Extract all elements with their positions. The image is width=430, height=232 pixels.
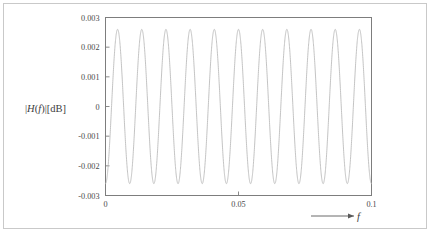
plot-frame — [106, 18, 372, 196]
chart-plot: 0.0030.0020.0010-0.001-0.002-0.003 00.05… — [0, 0, 430, 232]
y-title-unit: [dB] — [47, 103, 66, 114]
y-axis-tick-labels: 0.0030.0020.0010-0.001-0.002-0.003 — [78, 14, 99, 201]
x-tick-label: 0.05 — [231, 200, 245, 209]
y-tick-label: -0.002 — [78, 162, 99, 171]
y-tick-label: 0.001 — [81, 73, 99, 82]
figure-container: 0.0030.0020.0010-0.001-0.002-0.003 00.05… — [0, 0, 430, 232]
x-axis-tick-labels: 00.050.1 — [103, 200, 376, 209]
x-axis-tick-marks — [106, 192, 372, 196]
y-axis-title: |H(f)|[dB] — [25, 103, 66, 115]
x-tick-label: 0 — [103, 200, 107, 209]
y-tick-label: 0.003 — [81, 14, 99, 23]
y-tick-label: -0.003 — [78, 192, 99, 201]
x-tick-label: 0.1 — [366, 200, 376, 209]
y-tick-label: 0.002 — [81, 43, 99, 52]
y-tick-label: 0 — [95, 103, 99, 112]
ripple-curve — [106, 29, 372, 183]
x-axis-title: f — [357, 211, 362, 222]
x-axis-arrow-head — [348, 213, 354, 218]
y-axis-tick-marks — [106, 18, 110, 196]
y-tick-label: -0.001 — [78, 132, 99, 141]
